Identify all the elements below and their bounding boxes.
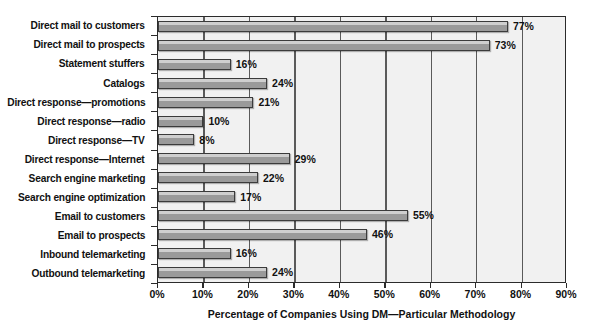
- bar-value-label: 29%: [295, 154, 316, 165]
- category-label-row: Outbound telemarketing: [0, 264, 151, 283]
- x-tick-label: 60%: [419, 289, 440, 300]
- bar: [158, 191, 235, 202]
- category-label-row: Direct response—TV: [0, 130, 151, 149]
- bar-value-label: 10%: [208, 116, 229, 127]
- bar: [158, 97, 253, 108]
- bar-value-label: 8%: [199, 135, 214, 146]
- bar: [158, 78, 267, 89]
- x-tick-label: 50%: [374, 289, 395, 300]
- category-label: Email to prospects: [57, 230, 145, 241]
- bar-row: 29%: [158, 149, 565, 168]
- bar-value-label: 16%: [236, 248, 257, 259]
- bar: [158, 153, 290, 164]
- x-tick-label: 40%: [328, 289, 349, 300]
- category-label-row: Statement stuffers: [0, 54, 151, 73]
- bar: [158, 229, 367, 240]
- x-tick-label: 70%: [465, 289, 486, 300]
- bar: [158, 172, 258, 183]
- category-label: Search engine marketing: [28, 173, 145, 184]
- bar: [158, 40, 490, 51]
- x-axis-tick-labels: 0%10%20%30%40%50%60%70%80%90%: [157, 289, 566, 303]
- bar-series: 77%73%16%24%21%10%8%29%22%17%55%46%16%24…: [158, 17, 565, 282]
- bar: [158, 248, 231, 259]
- plot-area: 77%73%16%24%21%10%8%29%22%17%55%46%16%24…: [157, 16, 566, 283]
- category-label: Catalogs: [104, 78, 145, 89]
- bar-value-label: 46%: [372, 229, 393, 240]
- category-label-row: Email to customers: [0, 207, 151, 226]
- bar-row: 22%: [158, 168, 565, 187]
- bar-row: 16%: [158, 55, 565, 74]
- bar-value-label: 22%: [263, 173, 284, 184]
- x-axis-title: Percentage of Companies Using DM—Particu…: [157, 309, 566, 320]
- bar-value-label: 24%: [272, 78, 293, 89]
- bar-row: 77%: [158, 17, 565, 36]
- x-tick-label: 20%: [237, 289, 258, 300]
- bar-row: 46%: [158, 225, 565, 244]
- category-label-row: Direct mail to customers: [0, 16, 151, 35]
- category-label-row: Search engine marketing: [0, 169, 151, 188]
- x-tick-label: 10%: [192, 289, 213, 300]
- bar-value-label: 55%: [413, 210, 434, 221]
- x-tick-label: 30%: [283, 289, 304, 300]
- category-label-row: Search engine optimization: [0, 188, 151, 207]
- category-label-row: Direct mail to prospects: [0, 35, 151, 54]
- category-label: Inbound telemarketing: [40, 249, 145, 260]
- bar-row: 55%: [158, 206, 565, 225]
- category-label: Direct response—promotions: [7, 97, 145, 108]
- bar-value-label: 73%: [495, 40, 516, 51]
- bar-value-label: 16%: [236, 59, 257, 70]
- category-label: Email to customers: [55, 211, 145, 222]
- bar-row: 73%: [158, 36, 565, 55]
- bar-row: 24%: [158, 74, 565, 93]
- x-axis-ticks: [157, 283, 566, 288]
- bar-value-label: 17%: [240, 192, 261, 203]
- bar-row: 17%: [158, 187, 565, 206]
- category-label-row: Inbound telemarketing: [0, 245, 151, 264]
- category-label: Direct mail to prospects: [34, 39, 145, 50]
- category-label: Direct mail to customers: [31, 20, 145, 31]
- category-label-row: Catalogs: [0, 73, 151, 92]
- category-axis-labels: Direct mail to customersDirect mail to p…: [0, 16, 151, 283]
- bar-row: 16%: [158, 244, 565, 263]
- bar: [158, 21, 508, 32]
- bar-chart: Direct mail to customersDirect mail to p…: [0, 0, 592, 330]
- category-label-row: Direct response—radio: [0, 111, 151, 130]
- bar: [158, 134, 194, 145]
- bar: [158, 116, 203, 127]
- category-label: Direct response—Internet: [25, 154, 145, 165]
- bar: [158, 210, 408, 221]
- category-label-row: Direct response—promotions: [0, 92, 151, 111]
- category-label: Outbound telemarketing: [32, 268, 145, 279]
- bar: [158, 267, 267, 278]
- category-label-row: Direct response—Internet: [0, 150, 151, 169]
- bar-value-label: 21%: [258, 97, 279, 108]
- bar-value-label: 77%: [513, 21, 534, 32]
- category-label: Direct response—radio: [37, 116, 145, 127]
- bar-row: 21%: [158, 93, 565, 112]
- x-tick-label: 90%: [555, 289, 576, 300]
- bar: [158, 59, 231, 70]
- bar-value-label: 24%: [272, 267, 293, 278]
- x-tick-label: 80%: [510, 289, 531, 300]
- bar-row: 10%: [158, 112, 565, 131]
- category-label: Search engine optimization: [18, 192, 145, 203]
- bar-row: 24%: [158, 263, 565, 282]
- bar-row: 8%: [158, 131, 565, 150]
- category-label-row: Email to prospects: [0, 226, 151, 245]
- category-label: Direct response—TV: [48, 135, 145, 146]
- category-label: Statement stuffers: [59, 58, 145, 69]
- x-tick-label: 0%: [149, 289, 164, 300]
